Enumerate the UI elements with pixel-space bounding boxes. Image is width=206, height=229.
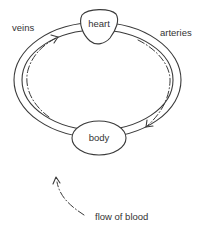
flow-of-blood-arrow <box>53 177 84 215</box>
body-node: body <box>72 121 126 155</box>
flow-of-blood-label: flow of blood <box>95 211 148 222</box>
veins-label: veins <box>12 22 34 33</box>
body-label: body <box>89 132 110 143</box>
heart-label: heart <box>88 18 110 29</box>
arteries-label: arteries <box>160 27 192 38</box>
circulation-diagram: heart body veins arteries flow of blood <box>0 0 206 229</box>
heart-node: heart <box>81 10 118 44</box>
